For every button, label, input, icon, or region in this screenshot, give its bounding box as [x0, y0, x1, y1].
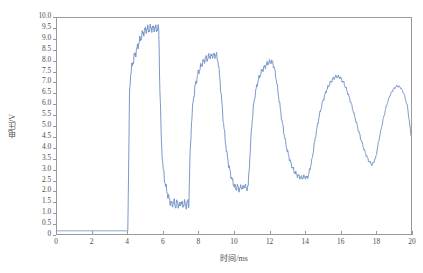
- x-tick-label: 2: [90, 237, 94, 246]
- x-tick-label: 10: [230, 237, 237, 246]
- y-axis-title: 电压/V: [7, 93, 19, 159]
- y-tick-label: 10.0: [38, 11, 51, 20]
- y-tick-label: 5.5: [42, 109, 51, 118]
- x-tick-label: 6: [161, 237, 165, 246]
- x-tick-mark: [127, 231, 128, 235]
- x-tick-mark: [376, 231, 377, 235]
- y-tick-label: 3.5: [42, 153, 51, 162]
- plot-area: [57, 18, 411, 234]
- y-tick-label: 7.0: [42, 76, 51, 85]
- x-tick-label: 14: [301, 237, 308, 246]
- y-tick-label: 9.0: [42, 33, 51, 42]
- y-tick-label: 8.5: [42, 44, 51, 53]
- x-tick-label: 12: [266, 237, 273, 246]
- x-tick-label: 4: [125, 237, 129, 246]
- y-tick-label: 8.0: [42, 55, 51, 64]
- x-tick-mark: [305, 231, 306, 235]
- y-tick-label: 0.5: [42, 218, 51, 227]
- y-tick-label: 2.5: [42, 175, 51, 184]
- x-tick-label: 8: [197, 237, 201, 246]
- x-tick-label: 0: [54, 237, 58, 246]
- y-tick-label: 4.0: [42, 142, 51, 151]
- x-tick-label: 16: [337, 237, 344, 246]
- y-tick-label: 4.5: [42, 131, 51, 140]
- x-tick-mark: [56, 231, 57, 235]
- y-tick-label: 3.0: [42, 164, 51, 173]
- y-tick-label: 2.0: [42, 185, 51, 194]
- y-tick-label: 0: [47, 229, 51, 238]
- x-tick-mark: [198, 231, 199, 235]
- y-tick-label: 7.5: [42, 66, 51, 75]
- y-tick-label: 9.5: [42, 22, 51, 31]
- x-tick-mark: [412, 231, 413, 235]
- y-tick-label: 5.0: [42, 120, 51, 129]
- x-tick-mark: [270, 231, 271, 235]
- chart-figure: 00.51.01.52.02.53.03.54.04.55.05.56.06.5…: [0, 0, 423, 273]
- plot-frame: [56, 17, 412, 235]
- y-tick-label: 6.0: [42, 98, 51, 107]
- x-tick-mark: [92, 231, 93, 235]
- x-tick-mark: [163, 231, 164, 235]
- x-tick-mark: [234, 231, 235, 235]
- x-axis-ticks: 02468101214161820: [56, 235, 412, 251]
- y-tick-label: 6.5: [42, 87, 51, 96]
- x-tick-label: 20: [408, 237, 415, 246]
- y-tick-label: 1.5: [42, 196, 51, 205]
- x-axis-title: 时间/ms: [56, 252, 412, 263]
- x-tick-mark: [341, 231, 342, 235]
- x-tick-label: 18: [373, 237, 380, 246]
- voltage-trace: [57, 18, 411, 234]
- y-tick-label: 1.0: [42, 207, 51, 216]
